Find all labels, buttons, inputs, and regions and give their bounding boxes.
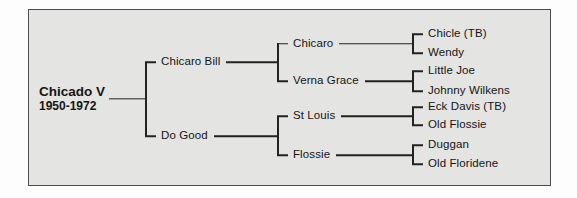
connector-stub [412,106,423,108]
node-label: Verna Grace [293,75,359,87]
root-name: Chicado V [39,84,105,100]
pedigree-panel: Chicado V 1950-1972 Chicaro Bill Do Good… [28,9,551,186]
connector-stub [412,90,423,92]
node-label: Old Floridene [428,158,498,170]
node-verna-grace: Verna Grace [277,75,412,87]
node-label: Flossie [293,149,330,161]
connector-root [109,98,145,100]
node-label: Old Flossie [428,119,487,131]
node-chicaro-bill: Chicaro Bill [145,56,277,68]
connector-line [365,80,412,82]
connector-stub [145,135,156,137]
node-eck-davis-tb: Eck Davis (TB) [412,101,506,113]
connector-stub [277,43,288,45]
root-node-text: Chicado V 1950-1972 [39,84,105,113]
node-chicle-tb: Chicle (TB) [412,28,487,40]
node-little-joe: Little Joe [412,65,475,77]
connector-stub [412,124,423,126]
connector-stub [277,115,288,117]
node-label: Eck Davis (TB) [428,101,506,113]
connector-stub [277,80,288,82]
node-st-louis: St Louis [277,110,412,122]
node-old-floridene: Old Floridene [412,158,498,170]
node-johnny-wilkens: Johnny Wilkens [412,85,510,97]
connector-stub [412,33,423,35]
root-node: Chicado V 1950-1972 [39,84,145,113]
node-label: Little Joe [428,65,475,77]
pedigree-diagram: Chicado V 1950-1972 Chicaro Bill Do Good… [0,0,577,198]
connector-stub [412,70,423,72]
connector-stub [412,163,423,165]
connector-line [339,43,412,45]
connector-line [341,115,412,117]
connector-stub [277,154,288,156]
connector-line [336,154,412,156]
node-label: Chicle (TB) [428,28,487,40]
connector-stub [412,52,423,54]
node-flossie: Flossie [277,149,412,161]
node-label: Duggan [428,139,469,151]
connector-stub [145,61,156,63]
bracket-gen1 [145,62,147,137]
connector-stub [412,144,423,146]
node-chicaro: Chicaro [277,38,412,50]
node-label: St Louis [293,110,335,122]
node-label: Johnny Wilkens [428,85,510,97]
node-label: Wendy [428,47,464,59]
connector-line [214,135,277,137]
node-wendy: Wendy [412,47,464,59]
root-years: 1950-1972 [39,100,105,114]
connector-line [226,61,277,63]
node-label: Do Good [161,130,208,142]
node-label: Chicaro Bill [161,56,220,68]
node-old-flossie: Old Flossie [412,119,487,131]
node-label: Chicaro [293,38,333,50]
node-duggan: Duggan [412,139,469,151]
node-do-good: Do Good [145,130,277,142]
